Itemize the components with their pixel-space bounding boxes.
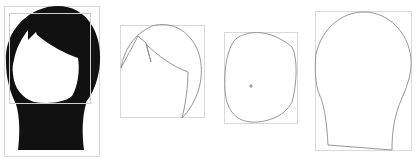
head-neck-outline [315,12,411,151]
bangs-outline [121,24,205,118]
face-outline [225,33,298,124]
center-marker-icon [249,84,253,88]
illustration-canvas [0,0,418,158]
full-hair-silhouette [5,6,101,157]
face-stroke [225,33,296,123]
head-bounding-box [316,12,412,151]
head-neck-stroke [315,12,411,150]
bangs-stroke [121,24,201,118]
